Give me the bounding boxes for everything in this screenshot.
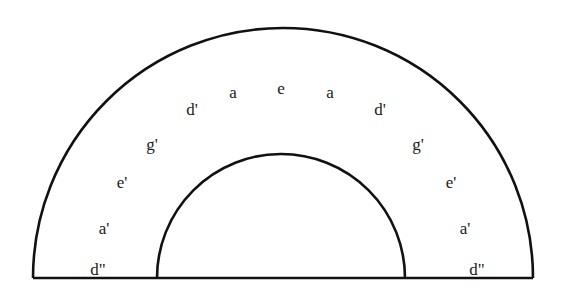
note-label: a xyxy=(326,83,334,102)
note-label: g' xyxy=(146,135,158,154)
inner-arc xyxy=(157,154,405,278)
note-label: e' xyxy=(117,173,128,192)
note-label: e xyxy=(277,79,285,98)
note-label: d' xyxy=(374,100,386,119)
note-label: a xyxy=(229,83,237,102)
note-label: e' xyxy=(446,173,457,192)
semicircle-diagram: d"a'e'g'd'aead'g'e'a'd" xyxy=(0,0,564,300)
note-label: d' xyxy=(186,100,198,119)
note-labels: d"a'e'g'd'aead'g'e'a'd" xyxy=(90,79,484,279)
note-label: g' xyxy=(412,135,424,154)
note-label: d" xyxy=(469,260,484,279)
note-label: d" xyxy=(90,260,105,279)
note-label: a' xyxy=(460,219,471,238)
note-label: a' xyxy=(99,219,110,238)
